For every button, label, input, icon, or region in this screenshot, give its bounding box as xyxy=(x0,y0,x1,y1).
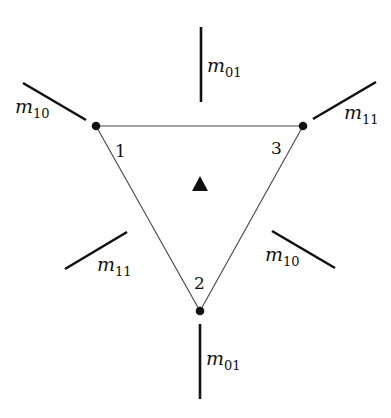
vertex-dot-3 xyxy=(299,122,308,131)
segment-lower-left-label: m11 xyxy=(97,253,132,279)
triangle-edge-2-1 xyxy=(96,126,200,311)
triangle-diagram: m01m10m11m11m10m01123 xyxy=(0,0,391,418)
segment-top-label: m01 xyxy=(207,54,242,80)
labels: m01m10m11m11m10m01123 xyxy=(15,54,379,373)
vertex-label-1: 1 xyxy=(115,141,126,161)
segment-upper-left-label: m10 xyxy=(15,95,50,121)
edge-markers xyxy=(23,27,376,399)
segment-bottom-label: m01 xyxy=(206,347,241,373)
vertex-label-2: 2 xyxy=(194,273,205,293)
center-triangle-icon xyxy=(192,176,208,191)
segment-upper-right-label: m11 xyxy=(344,101,379,127)
vertex-dot-2 xyxy=(196,307,205,316)
center-marker xyxy=(192,176,208,191)
segment-lower-right-label: m10 xyxy=(265,243,300,269)
vertex-label-3: 3 xyxy=(271,138,282,158)
vertex-dot-1 xyxy=(92,122,101,131)
triangle-edge-3-2 xyxy=(200,126,303,311)
